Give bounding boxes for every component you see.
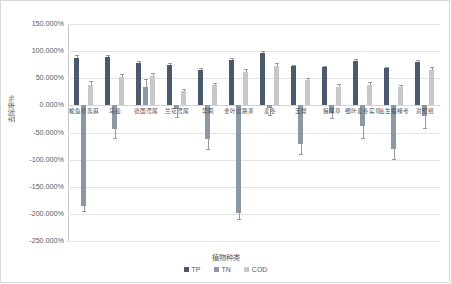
error-bar-cap [106,55,110,56]
bar-cod[interactable] [181,91,187,105]
bar-tp[interactable] [74,58,80,106]
error-bar-cap [244,69,248,70]
x-axis-category-label: 梭鱼草蓖麻 [69,108,99,115]
error-bar-cap [416,60,420,61]
error-bar-cap [306,78,310,79]
error-bar-stem [363,126,364,138]
bar-cod[interactable] [88,85,94,106]
error-bar-cap [430,67,434,68]
gridline [68,241,440,242]
error-bar-cap [423,128,427,129]
bar-tp[interactable] [136,63,142,105]
bar-tp[interactable] [415,62,421,105]
bar-group: 德国鸢尾 [130,24,161,241]
bar-group: 玉簪 [285,24,316,241]
bar-group: 早莉 [192,24,223,241]
x-axis-category-label: 马蔺 [109,108,121,115]
bar-group: 兰花鸢尾 [161,24,192,241]
y-axis-tick-label: -100.000% [6,156,64,164]
bar-tp[interactable] [384,68,390,105]
error-bar-cap [368,82,372,83]
bar-cod[interactable] [367,85,373,106]
y-axis-tick-label: -150.000% [6,183,64,191]
legend-item[interactable]: TP [184,266,201,273]
y-axis-tick-label: 150.000% [6,20,64,28]
bar-cod[interactable] [429,70,435,106]
error-bar-cap [361,138,365,139]
x-axis-category-label: 麦冬 [264,108,276,115]
error-bar-cap [237,219,241,220]
error-bar-stem [425,116,426,128]
error-bar-cap [330,118,334,119]
x-axis-category-label: 细叶麦冬实草 [345,108,381,115]
error-bar-stem [239,213,240,220]
bar-tp[interactable] [167,65,173,106]
y-axis-tick-label: 50.000% [6,74,64,82]
error-bar-stem [301,144,302,154]
bar-group: 马蔺 [99,24,130,241]
bar-tp[interactable] [260,53,266,105]
chart-container: 去除率% 150.000%100.000%50.000%0.000%-50.00… [0,0,451,284]
bar-cod[interactable] [398,87,404,105]
legend-item[interactable]: TN [214,266,231,273]
bar-cod[interactable] [119,77,125,105]
bar-tn[interactable] [143,87,149,105]
x-axis-category-label: 德国鸢尾 [134,108,158,115]
legend-label: TN [222,266,231,273]
x-axis-category-label: 兰花鸢尾 [165,108,189,115]
bar-group: 狼尾草 [316,24,347,241]
bar-cod[interactable] [150,76,156,106]
error-bar-cap [89,81,93,82]
bar-tp[interactable] [353,61,359,105]
bar-group: 细叶麦冬实草 [347,24,378,241]
error-bar-cap [385,67,389,68]
error-bar-cap [168,63,172,64]
chart-legend: TPTNCOD [0,266,451,273]
bar-tp[interactable] [229,60,235,106]
bar-tn[interactable] [81,105,87,205]
error-bar-cap [151,73,155,74]
x-axis-category-label: 玉簪 [295,108,307,115]
bar-group: 麦冬 [254,24,285,241]
error-bar-cap [230,58,234,59]
bar-cod[interactable] [274,66,280,105]
error-bar-cap [275,63,279,64]
y-axis-tick-label: -250.000% [6,237,64,245]
bar-tp[interactable] [322,67,328,105]
error-bar-cap [113,138,117,139]
bar-tp[interactable] [198,70,204,106]
bar-tn[interactable] [236,105,242,212]
error-bar-cap [213,83,217,84]
error-bar-cap [206,149,210,150]
y-axis-tick-label: -200.000% [6,210,64,218]
error-bar-stem [146,79,147,87]
x-axis-category-label: 金叶过路黄 [224,108,254,115]
error-bar-cap [175,117,179,118]
bar-group: 金叶过路黄 [223,24,254,241]
error-bar-cap [82,211,86,212]
error-bar-cap [323,66,327,67]
error-bar-cap [199,68,203,69]
error-bar-cap [120,74,124,75]
legend-swatch [184,267,189,272]
error-bar-cap [354,59,358,60]
x-axis-category-label: 对照组 [416,108,434,115]
legend-label: COD [252,266,268,273]
bar-tp[interactable] [105,57,111,106]
y-axis-tick-label: 0.000% [6,101,64,109]
bar-cod[interactable] [243,72,249,106]
x-axis-category-label: 丛生福禄考 [379,108,409,115]
error-bar-cap [337,84,341,85]
bar-cod[interactable] [305,80,311,105]
x-axis-category-label: 早莉 [202,108,214,115]
bar-group: 对照组 [409,24,440,241]
y-axis-tick-labels: 150.000%100.000%50.000%0.000%-50.000%-10… [4,24,64,241]
error-bar-stem [394,149,395,159]
error-bar-cap [399,85,403,86]
bar-tp[interactable] [291,66,297,105]
error-bar-stem [115,129,116,138]
error-bar-cap [292,65,296,66]
bar-cod[interactable] [212,85,218,105]
legend-item[interactable]: COD [244,266,268,273]
bar-cod[interactable] [336,87,342,105]
